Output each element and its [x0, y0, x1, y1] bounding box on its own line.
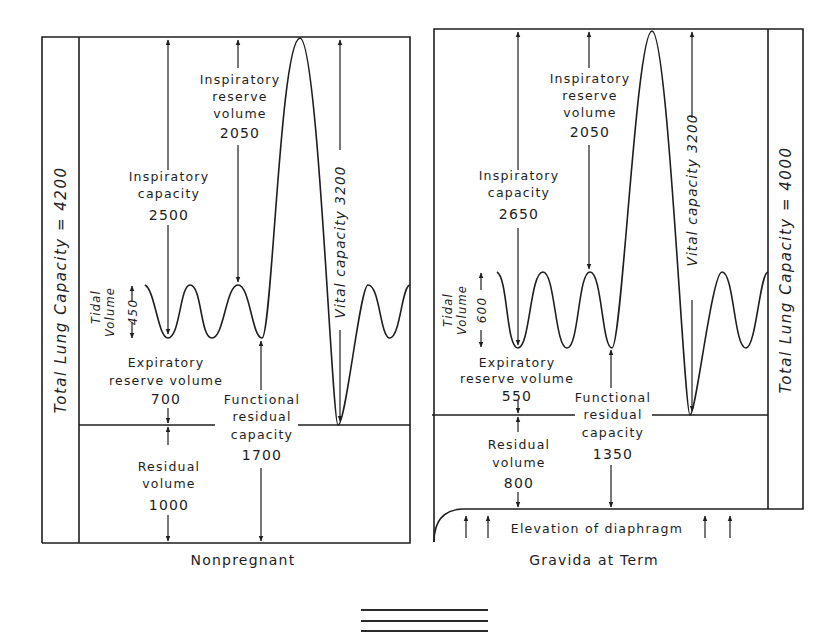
rv-label-1: Residual	[138, 459, 200, 474]
frc-label-3: capacity	[582, 425, 644, 440]
irv-label-3: volume	[563, 105, 617, 120]
erv-label-1: Expiratory	[128, 355, 205, 370]
frc-value: 1350	[593, 446, 633, 462]
panel-frame	[434, 29, 803, 542]
caption-nonpregnant: Nonpregnant	[191, 552, 296, 568]
erv-label-2: reserve volume	[460, 371, 574, 386]
tidal-value: 450	[126, 299, 140, 326]
ic-label-2: capacity	[488, 185, 550, 200]
tlc-label: Total Lung Capacity = 4000	[777, 147, 795, 394]
tidal-label-2: Volume	[103, 287, 117, 337]
ic-value: 2650	[499, 206, 539, 222]
section-divider	[361, 610, 488, 631]
irv-value: 2050	[220, 125, 260, 141]
rv-label-1: Residual	[488, 437, 550, 452]
irv-label-3: volume	[213, 106, 267, 121]
tidal-label-1: Tidal	[441, 293, 455, 327]
erv-value: 550	[502, 388, 532, 404]
rv-label-2: volume	[492, 455, 546, 470]
ic-label-1: Inspiratory	[129, 169, 210, 184]
caption-gravida: Gravida at Term	[529, 552, 659, 568]
irv-label-2: reserve	[212, 89, 267, 104]
irv-value: 2050	[570, 124, 610, 140]
vc-label: Vital capacity 3200	[684, 113, 700, 266]
gravida-panel: Inspiratory reserve volume 2050 Inspirat…	[432, 29, 803, 568]
tidal-label-1: Tidal	[89, 290, 103, 324]
frc-value: 1700	[242, 447, 282, 463]
tidal-value: 600	[475, 297, 489, 324]
frc-label-3: capacity	[231, 427, 293, 442]
diaphragm-label: Elevation of diaphragm	[511, 521, 683, 536]
vc-label: Vital capacity 3200	[332, 165, 348, 318]
nonpregnant-panel: Inspiratory reserve volume 2050 Inspirat…	[42, 37, 410, 568]
ic-value: 2500	[149, 207, 189, 223]
erv-label-2: reserve volume	[109, 373, 223, 388]
ic-label-1: Inspiratory	[479, 168, 560, 183]
rv-value: 800	[504, 475, 534, 491]
diaphragm-curve	[434, 509, 462, 542]
irv-label-2: reserve	[562, 88, 617, 103]
ic-label-2: capacity	[138, 186, 200, 201]
frc-label-1: Functional	[224, 392, 300, 407]
frc-label-2: residual	[232, 409, 291, 424]
frc-label-2: residual	[583, 407, 642, 422]
tlc-label: Total Lung Capacity = 4200	[52, 167, 70, 414]
tidal-label-2: Volume	[455, 285, 469, 335]
rv-value: 1000	[149, 497, 189, 513]
frc-label-1: Functional	[575, 390, 651, 405]
rv-label-2: volume	[142, 476, 196, 491]
erv-value: 700	[151, 391, 181, 407]
irv-label-1: Inspiratory	[550, 71, 631, 86]
erv-label-1: Expiratory	[479, 355, 556, 370]
irv-label-1: Inspiratory	[200, 72, 281, 87]
lung-volumes-diagram: Inspiratory reserve volume 2050 Inspirat…	[0, 0, 833, 640]
